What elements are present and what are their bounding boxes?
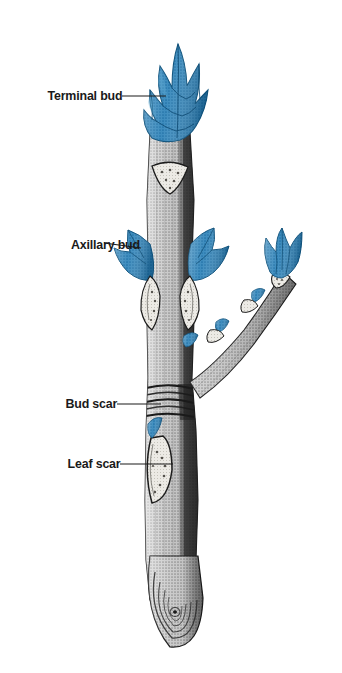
branch-lateral-bud-upper — [251, 288, 265, 302]
axillary-bud-right-shading — [188, 228, 229, 280]
stem-lower-bud — [183, 333, 198, 347]
label-leaf-scar: Leaf scar — [67, 456, 120, 471]
label-axillary-bud: Axillary bud — [71, 237, 140, 252]
branch-terminal-bud — [265, 228, 302, 278]
terminal-bud — [144, 44, 208, 142]
axillary-bud-right — [188, 228, 229, 280]
main-stem — [145, 132, 200, 600]
cut-base-shading — [149, 556, 203, 647]
twig-anatomy-figure: Terminal bud Axillary bud Bud scar Leaf … — [0, 0, 342, 673]
stem-shadow-band — [178, 132, 200, 600]
branch-terminal-bud-shading — [265, 228, 302, 278]
branch-leaf-scar-lower — [207, 330, 224, 343]
label-terminal-bud: Terminal bud — [47, 88, 122, 103]
cut-base — [149, 556, 203, 647]
label-bud-scar: Bud scar — [65, 396, 117, 411]
lateral-branch-shading — [190, 272, 296, 398]
